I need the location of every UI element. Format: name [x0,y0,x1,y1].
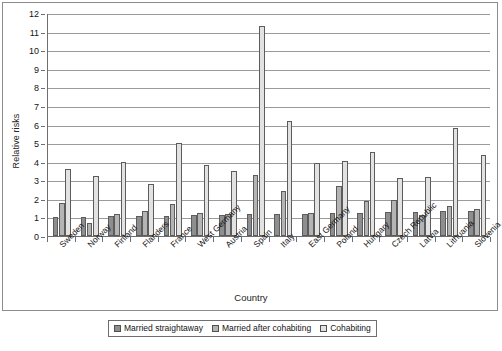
bar [247,214,253,236]
bar-group [380,14,408,236]
y-axis-tick-mark [41,181,45,182]
bar-group [103,14,131,236]
bar [121,162,127,236]
y-axis-tick-label: 7 [34,102,39,111]
x-axis-title: Country [0,292,502,303]
bar [53,217,59,236]
y-axis-tick-label: 3 [34,177,39,186]
bar-group [48,14,76,236]
bar [287,121,293,236]
bar [59,203,65,236]
legend-swatch-icon [212,325,219,332]
bar [370,152,376,236]
legend-label: Cohabiting [330,323,371,333]
y-axis-tick-mark [41,107,45,108]
y-axis-tick-mark [41,218,45,219]
bar [447,206,453,236]
legend-label: Married straightaway [124,323,203,333]
bar [440,211,446,236]
y-axis-tick-mark [41,33,45,34]
y-axis-tick-mark [41,144,45,145]
y-axis-tick-mark [41,237,45,238]
bar [453,128,459,236]
y-axis-tick-label: 0 [34,233,39,242]
bar-group [297,14,325,236]
bar-group [325,14,353,236]
y-axis-tick-mark [41,14,45,15]
bar [302,214,308,236]
y-axis-tick-labels: 0123456789101112 [0,14,44,237]
y-axis-tick-label: 9 [34,65,39,74]
bar [314,163,320,236]
bar [197,213,203,236]
y-axis-tick-mark [41,70,45,71]
bars-layer [48,14,490,236]
y-axis-tick-mark [41,88,45,89]
bar [308,213,314,236]
bar [191,215,197,236]
y-axis-tick-label: 4 [34,158,39,167]
x-axis-tick-mark [47,237,48,242]
legend-entry: Married straightaway [114,323,203,333]
y-axis-tick-mark [41,51,45,52]
bar [170,204,176,236]
bar [65,169,71,236]
bar [281,191,287,236]
y-axis-tick-label: 6 [34,121,39,130]
bar [259,26,265,236]
bar-group [76,14,104,236]
bar [481,155,487,236]
bar [342,161,348,236]
bar-group [353,14,381,236]
y-axis-tick-label: 10 [29,47,39,56]
chart-legend: Married straightawayMarried after cohabi… [108,320,377,337]
bar [142,211,148,236]
y-axis-tick-mark [41,200,45,201]
bar-group [214,14,242,236]
legend-entry: Married after cohabiting [212,323,311,333]
bar [93,176,99,236]
bar-group [186,14,214,236]
y-axis-tick-label: 2 [34,195,39,204]
bar [397,178,403,236]
y-axis-tick-label: 5 [34,140,39,149]
legend-entry: Cohabiting [320,323,371,333]
bar [204,165,210,236]
legend-swatch-icon [320,325,327,332]
y-axis-tick-mark [41,126,45,127]
bar [114,214,120,236]
y-axis-tick-label: 12 [29,10,39,19]
bar-group [159,14,187,236]
bar [357,213,363,236]
legend-swatch-icon [114,325,121,332]
bar [87,223,93,236]
y-axis-tick-mark [41,163,45,164]
y-axis-tick-label: 11 [30,28,39,37]
bar [253,175,259,236]
y-axis-tick-label: 1 [34,214,39,223]
bar-group [242,14,270,236]
bar [364,201,370,236]
legend-label: Married after cohabiting [222,323,311,333]
bar-group [270,14,298,236]
plot-area [47,14,490,237]
bar [274,214,280,236]
bar-group [436,14,464,236]
bar-group [463,14,491,236]
bar [176,143,182,236]
chart-container: Relative risks 0123456789101112 SwedenNo… [0,0,502,351]
bar-group [131,14,159,236]
bar [391,200,397,236]
bar [474,209,480,237]
x-axis-category-labels: SwedenNorwayFinlandFlandersFranceWest Ge… [47,243,490,299]
bar [136,216,142,236]
y-axis-tick-label: 8 [34,84,39,93]
